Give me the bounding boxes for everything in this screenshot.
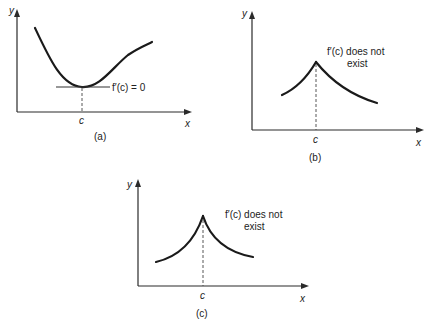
y-axis-label: y xyxy=(126,179,133,190)
tick-label-c: c xyxy=(313,134,318,145)
annotation-line-2: exist xyxy=(244,221,265,232)
function-curve-left xyxy=(156,216,203,262)
annotation-line-1: f′(c) does not xyxy=(225,209,283,220)
x-axis-arrow-icon xyxy=(184,109,192,115)
panel-caption: (a) xyxy=(94,131,106,142)
annotation-line-2: exist xyxy=(347,58,368,69)
y-axis-arrow-icon xyxy=(249,11,255,19)
x-axis-arrow-icon xyxy=(416,127,424,133)
y-axis-arrow-icon xyxy=(135,179,141,187)
tick-label-c: c xyxy=(200,290,205,301)
x-axis-label: x xyxy=(415,137,422,148)
panel-caption: (b) xyxy=(309,152,321,163)
y-axis-arrow-icon xyxy=(14,9,20,17)
annotation-line-1: f′(c) does not xyxy=(327,46,385,57)
function-curve xyxy=(35,28,152,87)
y-axis-label: y xyxy=(8,5,15,16)
function-curve-left xyxy=(282,62,316,95)
y-axis-label: y xyxy=(241,8,248,19)
x-axis-label: x xyxy=(299,293,306,304)
tick-label-c: c xyxy=(79,115,84,126)
panel-caption: (c) xyxy=(196,308,208,319)
critical-points-figure: y x c f′(c) = 0 (a) y x c f′(c) does not… xyxy=(0,0,433,332)
panel-a: y x c f′(c) = 0 (a) xyxy=(8,5,192,142)
x-axis-arrow-icon xyxy=(301,283,309,289)
panel-b: y x c f′(c) does not exist (b) xyxy=(241,8,424,163)
annotation: f′(c) = 0 xyxy=(112,82,146,93)
x-axis-label: x xyxy=(184,118,191,129)
panel-c: y x c f′(c) does not exist (c) xyxy=(126,179,309,319)
